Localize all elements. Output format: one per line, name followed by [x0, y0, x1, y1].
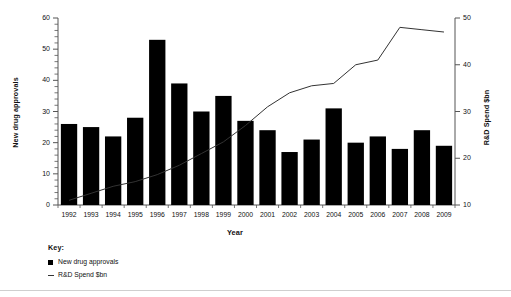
x-tick-2001: 2001 — [256, 211, 280, 218]
bar-1997 — [171, 83, 187, 205]
bar-2000 — [237, 121, 253, 205]
y-left-tick-40: 40 — [28, 76, 50, 83]
x-tick-1992: 1992 — [57, 211, 81, 218]
x-tick-2008: 2008 — [410, 211, 434, 218]
y-left-tick-20: 20 — [28, 139, 50, 146]
y-right-tick-10: 10 — [463, 201, 485, 208]
legend: Key: New drug approvals R&D Spend $bn — [48, 243, 118, 284]
x-tick-1994: 1994 — [101, 211, 125, 218]
y-left-tick-60: 60 — [28, 14, 50, 21]
x-tick-2005: 2005 — [344, 211, 368, 218]
bar-1998 — [193, 112, 209, 206]
x-tick-1993: 1993 — [79, 211, 103, 218]
square-marker-icon — [48, 260, 53, 265]
y-right-tick-30: 30 — [463, 108, 485, 115]
y-right-tick-50: 50 — [463, 14, 485, 21]
x-tick-2009: 2009 — [432, 211, 456, 218]
chart-container: New drug approvals R&D Spend $bn Year 01… — [0, 0, 511, 297]
bar-2003 — [303, 140, 319, 205]
y-left-tick-0: 0 — [28, 201, 50, 208]
bar-1992 — [61, 124, 77, 205]
bar-2008 — [414, 130, 430, 205]
y-left-tick-30: 30 — [28, 108, 50, 115]
y-left-tick-10: 10 — [28, 170, 50, 177]
bar-1994 — [105, 136, 121, 205]
x-tick-1995: 1995 — [123, 211, 147, 218]
bar-2001 — [259, 130, 275, 205]
x-tick-2006: 2006 — [366, 211, 390, 218]
bar-2004 — [326, 108, 342, 205]
y-left-tick-50: 50 — [28, 45, 50, 52]
legend-item-line: R&D Spend $bn — [48, 271, 118, 279]
bar-2006 — [370, 136, 386, 205]
x-tick-1997: 1997 — [167, 211, 191, 218]
x-tick-2007: 2007 — [388, 211, 412, 218]
bar-1995 — [127, 118, 143, 205]
bar-2002 — [281, 152, 297, 205]
bar-1996 — [149, 40, 165, 205]
x-tick-1999: 1999 — [211, 211, 235, 218]
legend-title: Key: — [48, 243, 118, 252]
x-tick-2003: 2003 — [300, 211, 324, 218]
x-tick-1998: 1998 — [189, 211, 213, 218]
line-series — [69, 27, 444, 200]
legend-label-line: R&D Spend $bn — [58, 271, 107, 279]
bar-series — [61, 40, 452, 205]
bar-2009 — [436, 146, 452, 205]
x-tick-1996: 1996 — [145, 211, 169, 218]
legend-item-bars: New drug approvals — [48, 258, 118, 266]
x-tick-2004: 2004 — [322, 211, 346, 218]
x-tick-2002: 2002 — [278, 211, 302, 218]
y-right-tick-20: 20 — [463, 154, 485, 161]
line-marker-icon — [48, 275, 54, 276]
bottom-divider — [0, 290, 511, 291]
legend-label-bars: New drug approvals — [58, 258, 118, 266]
bar-2005 — [348, 143, 364, 205]
bar-2007 — [392, 149, 408, 205]
y-right-tick-40: 40 — [463, 61, 485, 68]
bar-1999 — [215, 96, 231, 205]
x-tick-2000: 2000 — [233, 211, 257, 218]
